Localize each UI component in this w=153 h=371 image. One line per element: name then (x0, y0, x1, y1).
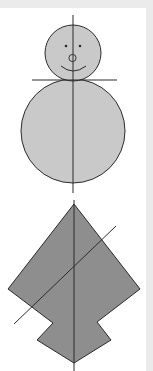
kite-figure (8, 200, 140, 371)
snowman-left-eye (65, 45, 68, 48)
snowman-figure (21, 15, 125, 193)
snowman-right-eye (79, 45, 82, 48)
symmetry-diagram (0, 0, 153, 371)
